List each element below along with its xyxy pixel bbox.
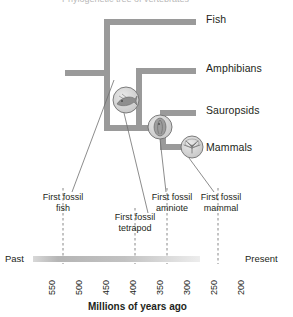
branch-amphibians bbox=[136, 68, 196, 74]
fossil-label-first-fossil-mammal: First fossil mammal bbox=[178, 192, 264, 214]
fossil-label-first-fossil-tetrapod: First fossil tetrapod bbox=[92, 212, 178, 234]
mammal-fossil-icon bbox=[181, 136, 203, 158]
taxon-label-amphibians: Amphibians bbox=[206, 62, 262, 74]
branch-trunk-main bbox=[104, 19, 110, 76]
tick-label-500: 500 bbox=[74, 280, 84, 295]
branch-sauropsids bbox=[160, 110, 196, 116]
phylogenetic-tree-figure: Phylogenetic tree of vertebrates bbox=[0, 0, 293, 317]
taxon-label-sauropsids: Sauropsids bbox=[206, 104, 260, 116]
tick-label-350: 350 bbox=[155, 280, 165, 295]
tick-label-200: 200 bbox=[236, 280, 246, 295]
fossil-label-line1: First fossil bbox=[178, 192, 264, 203]
tick-label-400: 400 bbox=[128, 280, 138, 295]
leader-line-fish bbox=[72, 80, 114, 192]
time-axis-bar bbox=[33, 256, 200, 262]
tree-branches bbox=[65, 19, 196, 150]
tick-label-550: 550 bbox=[47, 280, 57, 295]
axis-label-past: Past bbox=[5, 253, 24, 264]
tick-label-300: 300 bbox=[182, 280, 192, 295]
axis-title: Millions of years ago bbox=[88, 301, 187, 312]
tick-label-450: 450 bbox=[101, 280, 111, 295]
branch-fish bbox=[104, 19, 196, 25]
amniote-egg-fossil-icon bbox=[148, 115, 172, 139]
taxon-label-fish: Fish bbox=[206, 13, 226, 25]
taxon-label-mammals: Mammals bbox=[206, 141, 252, 153]
fossil-label-line1: First fossil bbox=[20, 192, 106, 203]
branch-tetrapod-v bbox=[104, 76, 110, 128]
tick-label-250: 250 bbox=[209, 280, 219, 295]
fish-fossil-icon bbox=[113, 87, 139, 113]
fossil-label-first-fossil-fish: First fossil fish bbox=[20, 192, 106, 214]
fossil-label-line2: tetrapod bbox=[92, 223, 178, 234]
leader-line-mammal bbox=[189, 158, 214, 192]
branch-root-stem bbox=[65, 70, 110, 76]
axis-label-present: Present bbox=[245, 253, 278, 264]
fossil-label-line2: mammal bbox=[178, 203, 264, 214]
tree-graphic bbox=[0, 0, 293, 317]
